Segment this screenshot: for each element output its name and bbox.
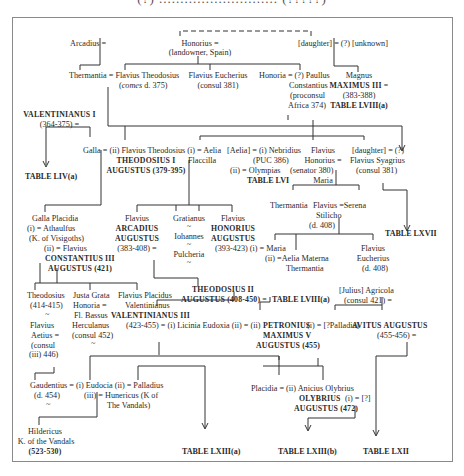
person-honorius-dates-maria: (393-423) (i) = Maria — [215, 244, 286, 254]
note-text-italic: comes — [122, 81, 142, 90]
person-petronius: PETRONIUS — [263, 321, 310, 331]
person-avitus-augustus: AVITUS AUGUSTUS — [352, 321, 427, 331]
person-flavius-aetius: Flavius — [30, 321, 54, 331]
person-aelia-materna: (ii) =Aelia Materna — [265, 254, 329, 264]
person-daughter-unknown: [daughter] = (?) [unknown] — [298, 39, 388, 49]
person-hildericus-king: K. of the Vandals — [10, 437, 82, 447]
person-herculanus: Herculanus — [72, 321, 109, 331]
link-table-lxiii-b: TABLE LXIII(b) — [278, 447, 337, 457]
tilde: ~ — [91, 339, 95, 349]
person-aelia-nebridius: [Aelia] = (i) Nebridius — [227, 146, 301, 156]
person-honorius-senator-name: Honorius = — [298, 156, 348, 166]
person-hildericus: Hildericus — [14, 427, 76, 437]
person-valentinianus-iii-marriages: (423-455) = (i) Licinia Eudoxia (ii) = (… — [126, 321, 261, 331]
person-honoria-paullus: Honoria = (?) Paullus — [259, 71, 330, 81]
link-table-lvi: TABLE LVI — [247, 176, 289, 186]
person-bassus: Fl. Bassus — [74, 311, 108, 321]
person-aetius: Aetius = — [31, 331, 59, 341]
note-text: d. 375) — [142, 81, 167, 90]
tilde: ~ — [166, 240, 212, 250]
person-julius-agricola: [Julius] Agricola — [339, 286, 394, 296]
person-galla-placidia: Galla Placidia — [32, 214, 78, 224]
person-theodosius-ii-augustus: AUGUSTUS (408-450) = — [181, 295, 267, 305]
person-valentinianus-i: VALENTINIANUS I — [22, 110, 97, 120]
person-daughter-syagrius: [daughter] = (?) — [352, 146, 404, 156]
person-hunericus: (iii) = Hunericus (K of — [84, 391, 158, 401]
person-avitus-dates: (455-456) = — [377, 331, 416, 341]
person-justa-grata: Justa Grata — [73, 291, 110, 301]
person-hildericus-dates: (523-530) — [14, 447, 76, 457]
person-aelia-materna-thermantia: Thermantia — [286, 264, 324, 274]
person-aetius-consul-year: (iii) 446) — [29, 350, 58, 360]
person-olybrius-wife: (i) = [?] — [345, 394, 371, 404]
person-placidia-olybrius: Placidia = (ii) Anicius Olybrius — [251, 384, 354, 394]
person-maximus-iii: MAXIMUS III = — [322, 81, 396, 91]
person-athaulfus-king: (K. of Visigoths) — [29, 234, 84, 244]
person-constantius-iii-augustus: AUGUSTUS (421) — [48, 264, 112, 274]
person-valentinianus-i-dates: (364-375) = — [22, 120, 97, 130]
person-flavius-placidus: Flavius Placidus — [118, 291, 172, 301]
person-honorius-description: (landowner, Spain) — [150, 48, 250, 58]
person-arcadius-augustus: AUGUSTUS — [112, 234, 162, 244]
person-athaulfus: (i) = Athaulfus — [27, 224, 75, 234]
link-table-liv-a: TABLE LIV(a) — [25, 172, 77, 182]
person-maria: Maria — [298, 176, 348, 186]
link-table-lviii-a: TABLE LVIII(a) — [318, 101, 400, 111]
person-eucherius-2-death: (d. 408) — [352, 264, 398, 274]
person-stilicho: Stilicho — [316, 211, 341, 221]
tilde: ~ — [46, 400, 50, 410]
person-arcadius: Arcadius = — [70, 39, 106, 49]
person-nebridius-puc: (PUC 386) — [253, 156, 289, 166]
person-theodosius-ii: THEODOSIUS II — [178, 285, 268, 295]
person-honorius-augustus: AUGUSTUS — [208, 234, 258, 244]
person-flavius-honorius-senator: Flavius — [298, 146, 348, 156]
person-theodosius-i: THEODOSIUS I — [106, 156, 186, 166]
person-arcadius-dates: (383-408) = — [110, 244, 164, 254]
person-eucherius-consul: (consul 381) — [183, 81, 253, 91]
person-flavius-eucherius-2: Flavius — [350, 244, 396, 254]
person-constantius-prefix: (ii) = Flavius — [44, 244, 87, 254]
person-paullus-proconsul: (proconsul — [290, 91, 325, 101]
person-eucherius-2-name: Eucherius — [350, 254, 396, 264]
person-flavius-eucherius: Flavius Eucherius — [183, 71, 253, 81]
person-aelia-flaccilla: Flaccilla — [188, 156, 216, 166]
person-placidus-valentinianus: Valentinianus — [125, 301, 170, 311]
person-maximus-v: MAXIMUS V — [263, 331, 311, 341]
person-olybrius: OLYBRIUS — [299, 394, 341, 404]
person-valentinianus-iii: VALENTINIANUS III — [111, 311, 190, 321]
person-arcadius-augustus-name: ARCADIUS — [112, 224, 162, 234]
link-table-lxii: TABLE LXII — [363, 447, 409, 457]
person-honorius-augustus-name: HONORIUS — [208, 224, 258, 234]
person-galla-theodosius-i: Galla = (ii) Flavius Theodosius (i) = Ae… — [83, 146, 221, 156]
tilde: ~ — [45, 310, 49, 320]
link-table-lviii-a-2: TABLE LVIII(a) — [272, 295, 330, 305]
person-magnus: Magnus — [326, 71, 392, 81]
person-justa-honoria: Honoria = — [73, 301, 107, 311]
link-table-lxvii: TABLE LXVII — [385, 229, 437, 239]
person-maximus-iii-dates: (383-388) — [326, 91, 392, 101]
person-maximus-v-augustus: AUGUSTUS (455) — [256, 341, 320, 351]
person-flavius-syagrius: Flavius Syagrius — [350, 156, 405, 166]
person-olympias: (ii) = Olympias — [230, 166, 281, 176]
link-table-lxiii-a: TABLE LXIII(a) — [182, 447, 240, 457]
person-theodosius-i-augustus: AUGUSTUS (379-395) — [100, 166, 192, 176]
person-thermantia-2: Thermantia — [270, 201, 308, 211]
person-constantius-iii: CONSTANTIUS III — [45, 254, 115, 264]
person-thermantia-theodosius: Thermantia = Flavius Theodosius — [69, 71, 179, 81]
person-honorius-senator-desc: (senator 380) — [290, 166, 333, 176]
person-hunericus-vandals: The Vandals) — [107, 401, 150, 411]
person-flavius-arcadius: Flavius — [114, 214, 160, 224]
tilde: ~ — [166, 222, 212, 232]
person-gaudentius-eudocia-palladius: Gaudentius = (i) Eudocia (ii) = Palladiu… — [30, 381, 163, 391]
person-syagrius-consul: (consul 381) — [356, 166, 397, 176]
person-stilicho-death: (d. 408) — [309, 221, 335, 231]
person-olybrius-augustus: AUGUSTUS (472) — [294, 404, 358, 414]
person-theodosius-child: Theodosius — [27, 291, 65, 301]
tilde: ~ — [166, 258, 212, 268]
person-flavius-honorius-augustus: Flavius — [208, 214, 258, 224]
person-agricola-consul: (consul 421) = — [344, 296, 392, 306]
person-stilicho-serena: Flavius =Serena — [313, 201, 366, 211]
person-theodosius-comes-note: (comes d. 375) — [119, 81, 167, 91]
